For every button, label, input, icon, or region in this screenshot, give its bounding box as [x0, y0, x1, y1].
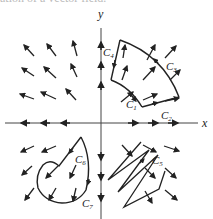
vector-field-quadrant-1 — [121, 45, 180, 102]
label-c7: C7 — [82, 197, 93, 211]
vector-field-diagram: x y — [0, 0, 213, 219]
label-c6: C6 — [75, 153, 86, 167]
curve-c4 — [111, 40, 120, 80]
y-axis-label: y — [97, 7, 104, 21]
label-c5: C5 — [152, 154, 163, 168]
curve-c6 — [37, 137, 86, 203]
label-c4: C4 — [103, 46, 114, 60]
curve-labels: C1 C2 C3 C4 C5 C6 C7 — [75, 46, 177, 211]
closed-curve-c6-c7 — [37, 137, 89, 203]
curve-c5 — [108, 142, 165, 207]
label-c2: C2 — [161, 109, 172, 123]
sector-region — [111, 40, 179, 107]
vector-field-quadrant-2 — [20, 41, 77, 100]
x-axis-label: x — [201, 116, 208, 130]
label-c3: C3 — [166, 60, 177, 74]
label-c1: C1 — [126, 98, 137, 112]
